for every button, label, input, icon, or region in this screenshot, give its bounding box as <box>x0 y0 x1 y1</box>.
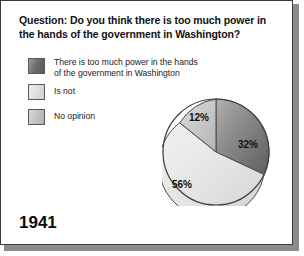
light-gray-swatch-icon <box>28 84 45 100</box>
medium-gray-swatch-icon <box>28 109 45 125</box>
legend-item-label: Is not <box>54 86 204 97</box>
pie-label-is-not: 56% <box>172 179 192 190</box>
dark-gray-swatch-icon <box>28 58 45 74</box>
chart-panel: Question: Do you think there is too much… <box>0 0 293 245</box>
year-label: 1941 <box>19 213 57 233</box>
question-text: Question: Do you think there is too much… <box>19 14 277 41</box>
legend-item-too-much-power[interactable]: There is too much power in the hands of … <box>28 58 198 84</box>
pie-label-too-much-power: 32% <box>238 139 258 150</box>
legend-item-label: There is too much power in the hands of … <box>54 57 204 78</box>
figure-root: Question: Do you think there is too much… <box>0 0 304 256</box>
pie-label-no-opinion: 12% <box>189 112 209 123</box>
